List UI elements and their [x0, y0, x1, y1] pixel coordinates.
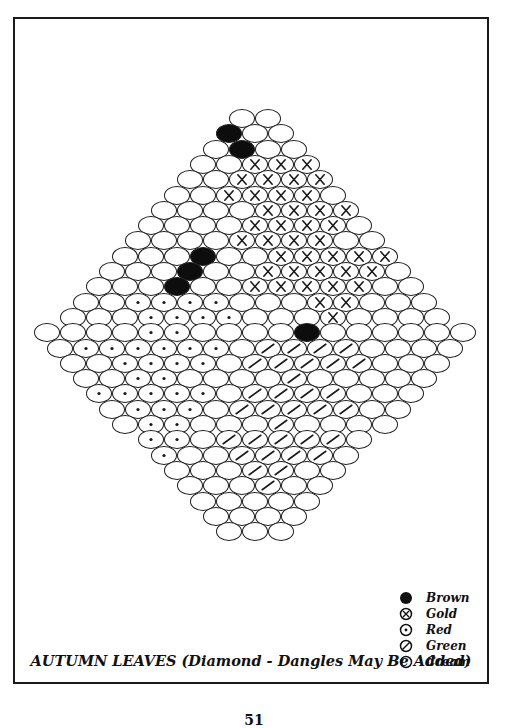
cream-bead	[268, 522, 294, 541]
legend-label: Red	[426, 623, 452, 637]
circle-dot-icon	[398, 622, 414, 638]
legend-label: Green	[426, 639, 467, 653]
circle-x-icon	[398, 606, 414, 622]
pattern-title: AUTUMN LEAVES (Diamond - Dangles May Be …	[13, 652, 489, 669]
legend-item-brown: Brown	[398, 590, 470, 606]
bead-pattern-diamond	[0, 0, 508, 600]
cream-bead	[242, 522, 268, 541]
filled-circle-icon	[398, 590, 414, 606]
legend-item-red: Red	[398, 622, 470, 638]
cream-bead	[372, 415, 398, 434]
cream-bead	[112, 415, 138, 434]
page-number: 51	[0, 712, 508, 728]
cream-bead	[216, 522, 242, 541]
legend-item-gold: Gold	[398, 606, 470, 622]
legend-label: Brown	[426, 591, 470, 605]
legend-label: Gold	[426, 607, 457, 621]
